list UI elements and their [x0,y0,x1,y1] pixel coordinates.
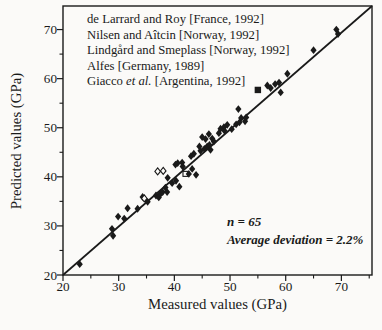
legend-item-text: Lindgård and Smeplass [Norway, 1992] [87,43,290,57]
y-tick-label: 70 [23,22,57,37]
legend-item-italic-text: et al. [126,74,151,88]
x-axis-title: Measured values (GPa) [63,296,372,313]
data-point-open-diamond [155,168,161,175]
x-tick-label: 60 [272,280,300,294]
legend-item-text: de Larrard and Roy [France, 1992] [87,12,264,26]
figure-canvas: de Larrard and Roy [France, 1992]Nilsen … [0,0,382,330]
annotation-count: n = 65 [227,213,363,231]
legend-item-text: Nilsen and Aîtcin [Norway, 1992] [87,28,259,42]
y-tick-label: 30 [23,218,57,233]
legend-item-text: [Argentina, 1992] [151,74,245,88]
legend-item-text: Alfes [Germany, 1989] [87,59,204,73]
data-point-filled-diamond [165,174,171,182]
x-tick-label: 50 [216,280,244,294]
legend-item: Nilsen and Aîtcin [Norway, 1992] [87,28,290,44]
annotation-deviation: Average deviation = 2.2% [227,231,363,249]
legend-item: Lindgård and Smeplass [Norway, 1992] [87,43,290,59]
legend-item: Alfes [Germany, 1989] [87,59,290,75]
data-point-filled-diamond [109,225,115,233]
annotation-block: n = 65 Average deviation = 2.2% [227,213,363,248]
y-tick-label: 40 [23,169,57,184]
x-tick-label: 30 [105,280,133,294]
data-point-filled-diamond [124,204,130,212]
y-tick-label: 60 [23,71,57,86]
data-point-filled-diamond [176,183,182,191]
data-point-filled-diamond [193,171,199,179]
data-point-open-diamond [160,167,166,174]
legend: de Larrard and Roy [France, 1992]Nilsen … [87,12,290,90]
y-tick-label: 50 [23,120,57,135]
data-point-filled-diamond [115,213,121,221]
data-point-filled-diamond [121,215,127,223]
data-point-filled-diamond [235,105,241,113]
legend-item: de Larrard and Roy [France, 1992] [87,12,290,28]
data-point-filled-diamond [310,46,316,54]
y-tick-label: 20 [23,268,57,283]
y-axis-title: Predicted values (GPa) [8,73,25,209]
legend-item-text: Giacco [87,74,126,88]
x-tick-label: 70 [327,280,355,294]
x-tick-label: 40 [160,280,188,294]
legend-item: Giacco et al. [Argentina, 1992] [87,74,290,90]
